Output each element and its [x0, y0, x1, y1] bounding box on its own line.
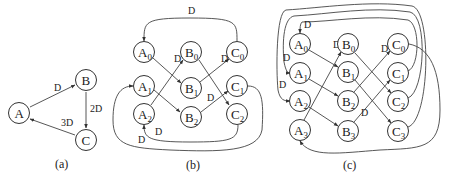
edge-c0-to-a0: [144, 18, 237, 41]
edge-delay-label: D: [207, 92, 214, 103]
edge-delay-label: 2D: [90, 103, 102, 114]
edge-a2-to-b3: [309, 107, 338, 126]
panel-caption-c: (c): [343, 158, 356, 172]
node-c1: C1: [388, 63, 409, 84]
edge-delay-label: D: [138, 134, 145, 145]
edge-a3-to-b0: [304, 52, 341, 120]
edge-delay-label: D: [174, 53, 181, 64]
edge-delay-label: D: [304, 19, 311, 30]
node-a0: A0: [134, 42, 155, 63]
edge-delay-label: D: [54, 82, 61, 93]
node-c3: C3: [388, 121, 409, 142]
panel-caption-a: (a): [55, 157, 68, 171]
node-a2: A2: [290, 91, 311, 112]
node-label: B: [82, 73, 91, 88]
panel-a-nodes: ABC: [9, 70, 97, 151]
node-b2: B2: [338, 91, 359, 112]
node-c: C: [76, 130, 97, 151]
node-b2: B2: [181, 107, 202, 128]
edge-delay-label: D: [188, 5, 195, 16]
edge-a-to-b: [30, 85, 75, 107]
node-a1: A1: [290, 63, 311, 84]
edge-delay-label: 3D: [61, 117, 73, 128]
edge-delay-label: D: [155, 126, 162, 137]
node-label: C: [82, 133, 91, 148]
panel-b-nodes: A0B0C0A1B1C1A2B2C2: [134, 42, 248, 128]
node-a1: A1: [134, 76, 155, 97]
node-a3: A3: [290, 120, 311, 141]
edge-a1-to-b2: [154, 90, 180, 112]
node-c0: C0: [227, 42, 248, 63]
node-c1: C1: [227, 76, 248, 97]
figure-canvas: D2D3DDDDDDDDDDDDD ABCA0B0C0A1B1C1A2B2C2A…: [0, 0, 455, 180]
node-c2: C2: [227, 104, 248, 125]
captions-layer: (a)(b)(c): [55, 157, 356, 172]
node-b0: B0: [338, 34, 359, 55]
edge-delay-label: D: [279, 79, 286, 90]
node-b1: B1: [338, 62, 359, 83]
node-a0: A0: [290, 34, 311, 55]
node-b1: B1: [181, 78, 202, 99]
node-b0: B0: [181, 42, 202, 63]
node-a2: A2: [134, 104, 155, 125]
node-label: A: [15, 106, 25, 121]
node-b3: B3: [338, 121, 359, 142]
node-b: B: [76, 70, 97, 91]
node-c0: C0: [388, 34, 409, 55]
panel-caption-b: (b): [186, 158, 200, 172]
edge-b2-to-c1: [201, 91, 228, 112]
panel-a: D2D3D: [30, 82, 102, 135]
edge-a0-to-b1: [309, 50, 338, 67]
edge-a1-to-b2: [309, 79, 338, 96]
edge-delay-label: D: [361, 107, 368, 118]
edge-a2-to-b0: [151, 60, 183, 105]
node-a: A: [9, 103, 30, 124]
graph-figure: D2D3DDDDDDDDDDDDD ABCA0B0C0A1B1C1A2B2C2A…: [0, 0, 455, 180]
panel-c-nodes: A0B0C0A1B1C1A2B2C2A3B3C3: [290, 34, 409, 142]
node-c2: C2: [388, 91, 409, 112]
edge-delay-label: D: [283, 52, 290, 63]
